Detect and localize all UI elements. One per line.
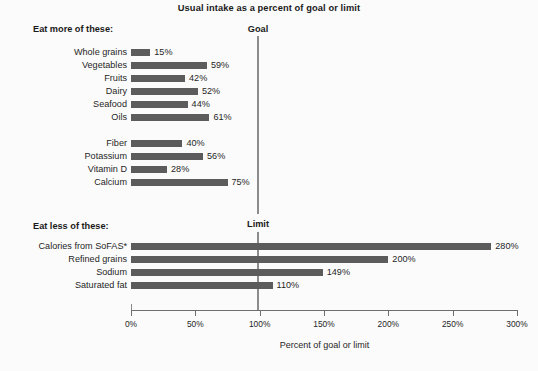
- x-axis-title: Percent of goal or limit: [131, 340, 518, 350]
- x-axis-tick: [131, 311, 132, 316]
- x-axis-tick-label: 300%: [497, 319, 537, 329]
- bar: [131, 101, 188, 109]
- chart-title: Usual intake as a percent of goal or lim…: [0, 3, 538, 13]
- x-axis-tick: [260, 311, 261, 316]
- bar-category-label: Vegetables: [82, 59, 127, 72]
- group-header-eat-more: Eat more of these:: [33, 24, 113, 34]
- bar-value-label: 28%: [171, 163, 189, 176]
- x-axis-tick: [388, 311, 389, 316]
- bar-value-label: 42%: [189, 72, 207, 85]
- bar-value-label: 61%: [213, 111, 231, 124]
- bar: [131, 88, 198, 96]
- x-axis-tick-label: 150%: [304, 319, 344, 329]
- group-header-eat-less: Eat less of these:: [33, 221, 109, 231]
- x-axis-tick: [324, 311, 325, 316]
- bar-category-label: Oils: [111, 111, 127, 124]
- bar: [131, 256, 388, 264]
- bar-category-label: Vitamin D: [88, 163, 127, 176]
- bar: [131, 140, 182, 148]
- bar-value-label: 75%: [232, 176, 250, 189]
- bar-category-label: Calories from SoFAS*: [39, 240, 127, 253]
- chart-container: Usual intake as a percent of goal or lim…: [0, 0, 538, 371]
- bar-category-label: Calcium: [94, 176, 127, 189]
- bar-category-label: Potassium: [85, 150, 127, 163]
- bar-value-label: 59%: [211, 59, 229, 72]
- bar-category-label: Fruits: [104, 72, 127, 85]
- x-axis-tick-label: 100%: [240, 319, 280, 329]
- x-axis-tick-label: 50%: [175, 319, 215, 329]
- bar-category-label: Whole grains: [74, 46, 127, 59]
- bar-value-label: 56%: [207, 150, 225, 163]
- x-axis-tick: [517, 311, 518, 316]
- x-axis-tick-label: 0%: [111, 319, 151, 329]
- bar-category-label: Sodium: [96, 266, 127, 279]
- bar-category-label: Refined grains: [68, 253, 127, 266]
- bar: [131, 243, 491, 251]
- bar: [131, 269, 323, 277]
- bar-value-label: 200%: [392, 253, 415, 266]
- x-axis-tick-label: 250%: [433, 319, 473, 329]
- bar: [131, 114, 209, 122]
- bar: [131, 153, 203, 161]
- bar-category-label: Saturated fat: [75, 279, 127, 292]
- bar: [131, 49, 150, 57]
- bar-value-label: 110%: [277, 279, 300, 292]
- bar: [131, 75, 185, 83]
- bar-value-label: 44%: [192, 98, 210, 111]
- bar-value-label: 40%: [186, 137, 204, 150]
- bar-category-label: Dairy: [106, 85, 127, 98]
- bar-category-label: Fiber: [106, 137, 127, 150]
- bar: [131, 282, 273, 290]
- bar: [131, 62, 207, 70]
- bar-value-label: 149%: [327, 266, 350, 279]
- bar-value-label: 52%: [202, 85, 220, 98]
- plot-area: Whole grains15%Vegetables59%Fruits42%Dai…: [131, 22, 517, 310]
- bar-category-label: Seafood: [93, 98, 127, 111]
- x-axis-tick: [195, 311, 196, 316]
- bar-value-label: 15%: [154, 46, 172, 59]
- bar: [131, 166, 167, 174]
- x-axis-tick: [453, 311, 454, 316]
- bar-value-label: 280%: [495, 240, 518, 253]
- x-axis-tick-label: 200%: [368, 319, 408, 329]
- bar: [131, 179, 228, 187]
